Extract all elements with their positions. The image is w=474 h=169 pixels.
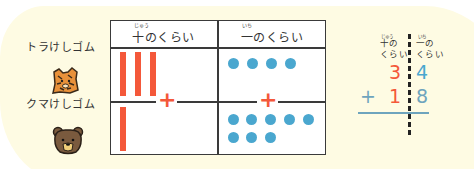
plus-sign-ones: +	[259, 89, 277, 111]
calc-tens-header-line2: くらい	[380, 50, 408, 59]
sum-line	[358, 112, 429, 114]
tens-bar	[120, 107, 126, 151]
tiger-face-icon	[50, 66, 80, 96]
ones-dot	[247, 58, 258, 69]
row-divider-right-b	[278, 101, 326, 103]
tiger-eraser-label: トラけしゴム	[26, 38, 95, 54]
place-divider-dashed	[408, 34, 411, 138]
ones-dot	[228, 114, 239, 125]
ones-dot	[303, 114, 314, 125]
tens-bar	[135, 52, 141, 96]
calc-row1-tens: 3	[389, 63, 401, 82]
calc-tens-header-line1: 十の	[380, 39, 399, 48]
ones-dot	[265, 114, 276, 125]
calc-row2-tens: 1	[389, 87, 401, 106]
ones-dot	[266, 58, 277, 69]
row-divider-left-b	[177, 101, 217, 103]
bear-eraser-label: クマけしゴム	[26, 95, 95, 111]
row-divider-right-a	[217, 101, 257, 103]
ones-dot	[285, 58, 296, 69]
plus-sign-tens: +	[158, 89, 176, 111]
calc-operator: +	[360, 87, 376, 106]
ones-dot	[265, 132, 276, 143]
tens-ruby: じゅう	[134, 21, 149, 28]
calc-ones-header-line2: くらい	[416, 50, 444, 59]
calc-row1-ones: 4	[416, 63, 428, 82]
ones-dot	[284, 114, 295, 125]
ones-dot	[228, 132, 239, 143]
calc-ones-header-line1: 一の	[416, 39, 435, 48]
calc-row2-ones: 8	[416, 87, 428, 106]
bear-face-icon	[52, 125, 84, 155]
ones-dot	[228, 58, 239, 69]
ones-ruby: いち	[242, 21, 252, 28]
ones-header: 一のくらい	[218, 28, 326, 45]
tens-bar	[120, 52, 126, 96]
tens-header: 十のくらい	[110, 28, 217, 45]
ones-dot	[246, 132, 257, 143]
ones-dot	[246, 114, 257, 125]
tens-bar	[150, 52, 156, 96]
row-divider-left-a	[110, 101, 156, 103]
